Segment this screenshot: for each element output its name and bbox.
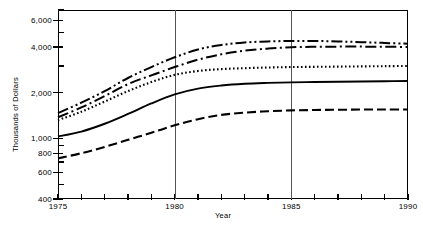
y-tick-label: 400 <box>16 195 52 204</box>
x-tick-mark <box>407 194 408 200</box>
y-minor-tick-mark <box>58 32 64 33</box>
x-tick-label: 1985 <box>282 202 301 211</box>
y-tick-label: 800 <box>16 149 52 158</box>
x-axis-title: Year <box>215 211 231 220</box>
y-tick-mark <box>53 20 63 21</box>
x-minor-tick-mark <box>361 194 362 200</box>
y-tick-label: 1,000 <box>16 134 52 143</box>
x-minor-tick-mark <box>127 194 128 200</box>
x-tick-label: 1980 <box>165 202 184 211</box>
x-minor-tick-mark <box>151 194 152 200</box>
x-minor-tick-mark <box>314 194 315 200</box>
vertical-gridline <box>175 10 176 199</box>
x-minor-tick-mark <box>81 194 82 200</box>
x-tick-label: 1975 <box>49 202 68 211</box>
y-minor-tick-mark <box>58 184 64 185</box>
x-minor-tick-mark <box>104 194 105 200</box>
y-tick-mark <box>53 46 63 47</box>
y-tick-label: 600 <box>16 168 52 177</box>
y-minor-tick-mark <box>58 145 64 146</box>
y-minor-tick-mark <box>58 161 64 162</box>
y-tick-mark <box>53 172 63 173</box>
x-minor-tick-mark <box>384 194 385 200</box>
y-tick-label: 2,000 <box>16 88 52 97</box>
y-tick-mark <box>53 92 63 93</box>
x-minor-tick-mark <box>197 194 198 200</box>
y-tick-mark <box>53 138 63 139</box>
x-minor-tick-mark <box>221 194 222 200</box>
plot-area-frame <box>58 10 408 199</box>
x-tick-mark <box>57 194 58 200</box>
x-minor-tick-mark <box>337 194 338 200</box>
y-tick-label: 6,000 <box>16 16 52 25</box>
y-tick-mark <box>53 153 63 154</box>
line-chart: Thousands of Dollars Year 4006008001,000… <box>0 0 423 225</box>
x-tick-label: 1990 <box>399 202 418 211</box>
x-minor-tick-mark <box>244 194 245 200</box>
vertical-gridline <box>291 10 292 199</box>
y-minor-tick-mark <box>58 9 64 10</box>
x-minor-tick-mark <box>267 194 268 200</box>
y-tick-label: 4,000 <box>16 42 52 51</box>
y-minor-tick-mark <box>58 65 64 66</box>
